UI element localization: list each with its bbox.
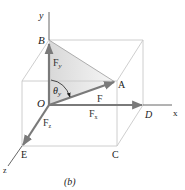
axis-label-z: z	[3, 166, 7, 175]
point-label-C: C	[112, 149, 119, 160]
axis-label-x: x	[173, 108, 178, 118]
axis-label-y: y	[38, 10, 44, 21]
z-axis	[8, 146, 22, 166]
point-label-O: O	[37, 97, 45, 109]
force-components-diagram: B O A D E C y x z F Fy Fx Fz θy (b)	[0, 0, 185, 190]
point-label-D: D	[144, 109, 153, 120]
point-label-B: B	[38, 34, 45, 46]
point-label-E: E	[21, 149, 27, 160]
vector-label-Fz: Fz	[43, 117, 52, 129]
figure-caption: (b)	[64, 176, 76, 188]
vector-label-Fx: Fx	[89, 108, 98, 120]
force-vectors	[23, 44, 142, 145]
vector-label-F: F	[97, 93, 103, 104]
point-label-A: A	[118, 79, 126, 90]
